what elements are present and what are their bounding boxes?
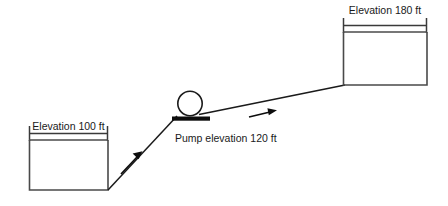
source-tank-label: Elevation 100 ft bbox=[32, 120, 104, 132]
source-tank-group: Elevation 100 ft bbox=[29, 120, 108, 190]
suction-flow-arrow-shaft bbox=[121, 156, 138, 174]
source-tank-body bbox=[30, 140, 109, 190]
destination-tank-group: Elevation 180 ft bbox=[343, 4, 427, 85]
suction-pipe-group bbox=[108, 116, 177, 190]
destination-tank-body bbox=[344, 32, 428, 85]
pump-base-pedestal bbox=[172, 117, 210, 121]
pump-label: Pump elevation 120 ft bbox=[175, 132, 277, 144]
pump-system-diagram: Elevation 100 ft Pump elevation 120 ft bbox=[0, 0, 448, 206]
destination-tank-label: Elevation 180 ft bbox=[349, 4, 421, 16]
discharge-flow-arrow-head bbox=[267, 108, 277, 115]
discharge-flow-arrow bbox=[249, 108, 277, 117]
pump-group: Pump elevation 120 ft bbox=[172, 91, 277, 144]
suction-flow-arrow bbox=[121, 151, 143, 174]
discharge-pipe-group bbox=[199, 85, 345, 117]
discharge-flow-arrow-shaft bbox=[249, 112, 270, 117]
suction-pipe bbox=[108, 116, 177, 190]
diagram-canvas: Elevation 100 ft Pump elevation 120 ft bbox=[0, 0, 448, 206]
pump-circle-icon bbox=[178, 91, 202, 115]
